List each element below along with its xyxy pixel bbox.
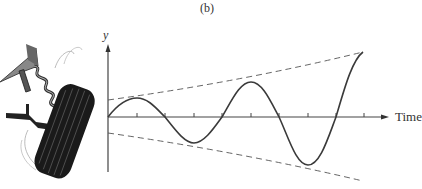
x-axis-label: Time: [395, 109, 422, 125]
y-axis-arrow-icon: [106, 44, 111, 52]
lower-envelope: [108, 133, 363, 181]
wheel-suspension-illustration: [0, 44, 99, 182]
x-axis-arrow-icon: [381, 115, 389, 120]
response-curve: [108, 52, 363, 165]
axes: [106, 44, 390, 172]
y-axis-label: y: [103, 28, 108, 43]
panel-label: (b): [200, 1, 214, 16]
